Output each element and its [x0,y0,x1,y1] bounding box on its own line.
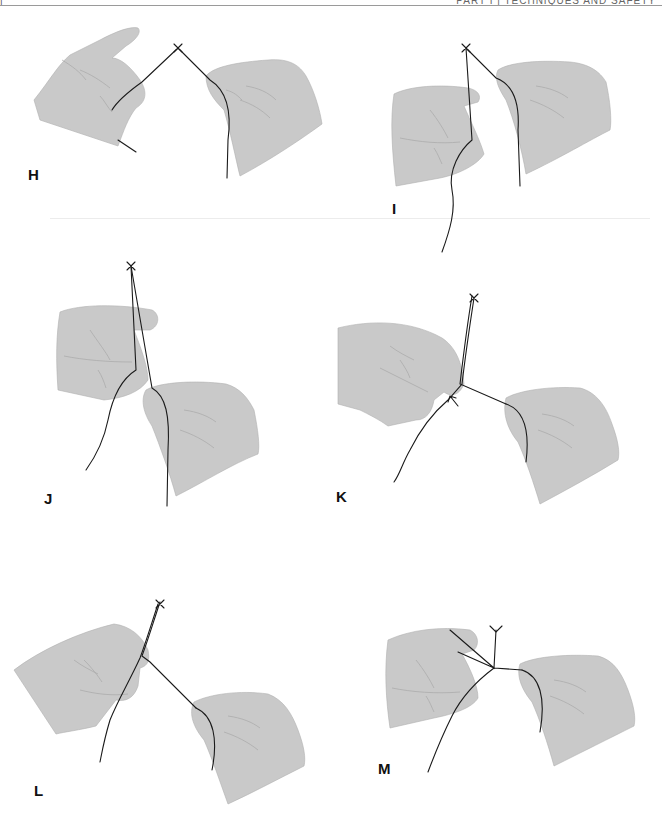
right-hand-icon [519,655,635,766]
left-hand-icon [14,624,149,734]
panel-label-h: H [28,166,39,183]
panel-k: K [330,280,662,520]
panel-m: M [330,600,662,818]
panel-m-illustration [330,600,662,818]
right-hand-icon [505,387,619,504]
panel-i-illustration [360,30,662,260]
panel-h: H [0,0,330,250]
left-hand-icon [338,323,464,426]
panel-h-illustration [0,0,330,250]
panel-label-l: L [34,782,43,799]
left-hand-icon [57,306,158,400]
panel-l-illustration [0,590,330,818]
panel-label-k: K [336,488,347,505]
left-hand-icon [34,28,145,146]
panel-label-i: I [392,200,396,217]
suture-thread [142,602,196,708]
left-hand-icon [392,86,484,186]
panel-label-j: J [44,490,52,507]
right-hand-icon [206,60,322,176]
panel-j-illustration [0,250,330,520]
panel-l: L [0,590,330,818]
right-hand-icon [192,692,305,804]
panel-label-m: M [378,760,391,777]
right-hand-icon [496,61,610,174]
left-hand-icon [386,628,478,728]
arrow-icon [448,396,458,406]
panel-i: I [360,30,662,260]
panel-k-illustration [330,280,662,520]
panel-j: J [0,250,330,520]
